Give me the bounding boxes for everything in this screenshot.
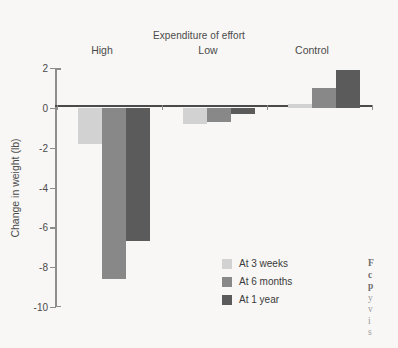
legend-swatch-icon [222,295,232,305]
y-tick-label--6: -6 [39,222,48,233]
bar-high-at-1-year [126,108,150,241]
legend-swatch-icon [222,259,232,269]
bar-low-at-1-year [231,108,255,114]
y-tick-label--2: -2 [39,142,48,153]
y-tick-label-2: 2 [42,63,48,74]
y-tick-label--4: -4 [39,182,48,193]
bar-control-at-6-months [312,88,336,108]
caption-line: v [368,304,398,316]
y-tick-label--8: -8 [39,262,48,273]
legend-item[interactable]: At 6 months [222,276,292,287]
figure-caption: Fcpyvis [368,258,398,339]
legend-item[interactable]: At 1 year [222,294,292,305]
bar-high-at-3-weeks [78,108,102,144]
y-tick-0 [50,108,56,109]
chart-title: Expenditure of effort [0,30,398,41]
legend-swatch-icon [222,277,232,287]
bar-low-at-6-months [207,108,231,122]
y-tick--10 [50,307,56,308]
caption-line: p [368,281,398,293]
y-tick--4 [50,188,56,189]
bar-control-at-1-year [336,70,360,108]
y-axis-label-text: Change in weight (lb) [9,138,21,237]
legend-item[interactable]: At 3 weeks [222,258,292,269]
legend: At 3 weeksAt 6 monthsAt 1 year [222,258,292,305]
x-tick-3 [372,105,373,110]
group-label-low: Low [168,44,248,56]
caption-line: s [368,327,398,339]
x-tick-0 [57,105,58,110]
caption-line: c [368,270,398,282]
y-tick-2 [50,68,56,69]
y-tick--8 [50,267,56,268]
bar-low-at-3-weeks [183,108,207,124]
figure: Expenditure of effort High Low Control C… [0,0,398,348]
caption-line: F [368,258,398,270]
y-axis-label: Change in weight (lb) [8,68,22,307]
y-tick-label-0: 0 [42,102,48,113]
plot-area: 20-2-4-6-8-10 [57,68,372,307]
y-tick--2 [50,148,56,149]
x-tick-2 [267,105,268,110]
legend-label: At 3 weeks [239,258,288,269]
group-label-control: Control [272,44,352,56]
legend-label: At 1 year [239,294,279,305]
y-tick-label--10: -10 [34,302,48,313]
legend-label: At 6 months [239,276,292,287]
caption-line: i [368,316,398,328]
bar-high-at-6-months [102,108,126,279]
caption-line: y [368,293,398,305]
group-label-high: High [62,44,142,56]
bar-control-at-3-weeks [288,104,312,108]
x-tick-1 [162,105,163,110]
y-tick--6 [50,227,56,228]
